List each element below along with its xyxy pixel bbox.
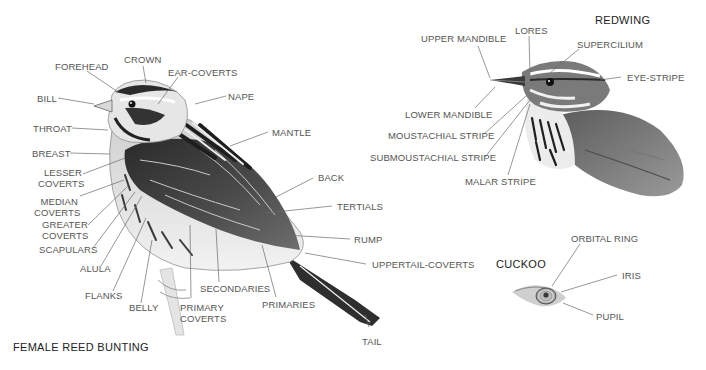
cuckoo-eye-illustration xyxy=(512,285,566,306)
label-lesser-coverts-line2: COVERTS xyxy=(38,178,84,189)
label-lower-mandible: LOWER MANDIBLE xyxy=(405,109,492,120)
label-eye-stripe: EYE-STRIPE xyxy=(627,72,685,83)
label-back: BACK xyxy=(318,172,344,183)
title-female-reed-bunting: FEMALE REED BUNTING xyxy=(13,341,149,353)
label-tertials: TERTIALS xyxy=(337,201,383,212)
label-greater-coverts-line1: GREATER xyxy=(42,219,88,230)
label-primary-coverts-line1: PRIMARY xyxy=(180,302,224,313)
title-cuckoo: CUCKOO xyxy=(496,258,546,270)
label-scapulars: SCAPULARS xyxy=(39,244,97,255)
label-breast: BREAST xyxy=(32,148,71,159)
label-lores: LORES xyxy=(515,25,548,36)
label-uppertail-coverts: UPPERTAIL-COVERTS xyxy=(372,259,475,270)
label-malar-stripe: MALAR STRIPE xyxy=(465,176,536,187)
label-forehead: FOREHEAD xyxy=(55,61,109,72)
label-moustachial-stripe: MOUSTACHIAL STRIPE xyxy=(388,130,494,141)
label-throat: THROAT xyxy=(33,123,72,134)
label-primaries: PRIMARIES xyxy=(262,299,315,310)
label-upper-mandible: UPPER MANDIBLE xyxy=(421,33,506,44)
label-median-coverts: MEDIAN COVERTS xyxy=(34,196,78,218)
label-crown: CROWN xyxy=(124,54,161,65)
label-greater-coverts: GREATER COVERTS xyxy=(42,219,87,241)
label-rump: RUMP xyxy=(354,234,382,245)
label-primary-coverts: PRIMARY COVERTS xyxy=(180,302,230,324)
label-iris: IRIS xyxy=(622,270,641,281)
label-median-coverts-line2: COVERTS xyxy=(34,207,80,218)
label-alula: ALULA xyxy=(80,263,111,274)
label-supercilium: SUPERCILIUM xyxy=(577,39,643,50)
label-nape: NAPE xyxy=(228,91,254,102)
label-lesser-coverts: LESSER COVERTS xyxy=(38,167,82,189)
label-pupil: PUPIL xyxy=(596,311,624,322)
label-ear-coverts: EAR-COVERTS xyxy=(168,67,238,78)
label-orbital-ring: ORBITAL RING xyxy=(571,233,638,244)
label-mantle: MANTLE xyxy=(272,127,311,138)
label-belly: BELLY xyxy=(129,302,158,313)
label-bill: BILL xyxy=(37,93,57,104)
label-tail: TAIL xyxy=(362,336,382,347)
label-submoustachial-stripe: SUBMOUSTACHIAL STRIPE xyxy=(370,152,496,163)
label-greater-coverts-line2: COVERTS xyxy=(42,230,88,241)
label-lesser-coverts-line1: LESSER xyxy=(44,167,82,178)
label-median-coverts-line1: MEDIAN xyxy=(40,196,78,207)
label-primary-coverts-line2: COVERTS xyxy=(180,313,226,324)
bird-anatomy-diagram: CROWN FOREHEAD EAR-COVERTS BILL NAPE THR… xyxy=(0,0,706,370)
title-redwing: REDWING xyxy=(595,14,650,26)
cuckoo-leader-lines xyxy=(552,244,617,315)
label-secondaries: SECONDARIES xyxy=(200,283,270,294)
label-flanks: FLANKS xyxy=(85,290,123,301)
